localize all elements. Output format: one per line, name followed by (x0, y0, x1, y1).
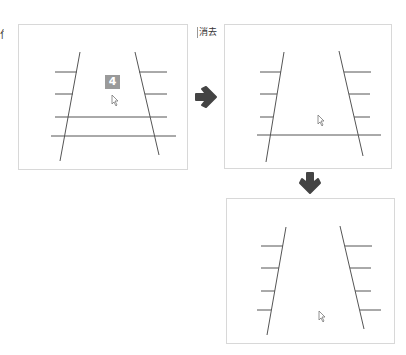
panel-before: 4 (18, 24, 188, 170)
edge-text: 付 (0, 26, 4, 41)
erase-label: 消去 (197, 27, 217, 38)
panel-after-bottom (226, 198, 395, 344)
arrow-right-icon (193, 84, 219, 110)
panel-after-right (224, 24, 392, 169)
cursor-icon (318, 115, 324, 126)
step-badge: 4 (105, 75, 120, 89)
ladder-diagram-after-right (225, 25, 391, 168)
ladder-diagram-after-bottom (227, 199, 394, 343)
cursor-icon (112, 95, 118, 106)
ladder-diagram-before (19, 25, 187, 169)
cursor-icon (319, 311, 325, 322)
arrow-down-icon (297, 170, 323, 196)
